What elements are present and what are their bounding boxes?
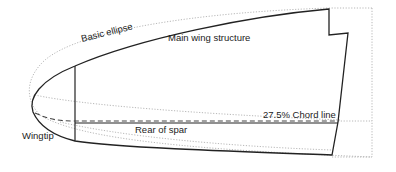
main-wing-structure-label: Main wing structure (168, 32, 250, 43)
chord-line-label: 27.5% Chord line (263, 109, 336, 120)
basic-ellipse-label: Basic ellipse (80, 20, 134, 43)
basic-ellipse-curve (29, 8, 372, 157)
wing-planform-diagram: Basic ellipse Main wing structure 27.5% … (0, 0, 396, 172)
rear-of-spar-label: Rear of spar (135, 124, 187, 135)
lower-ellipse-curve (60, 122, 332, 150)
main-wing-outline (32, 9, 348, 155)
wingtip-label: Wingtip (22, 130, 54, 141)
